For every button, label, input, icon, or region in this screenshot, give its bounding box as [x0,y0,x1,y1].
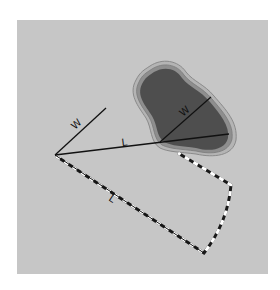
setback-diagram: W L W L [0,0,280,290]
